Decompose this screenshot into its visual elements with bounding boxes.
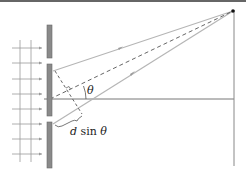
diagram-canvas: θ d sin θ	[0, 0, 246, 176]
barrier-top	[47, 25, 52, 58]
dashed-perpendicular	[55, 71, 82, 114]
ray-lower-slit	[53, 11, 233, 124]
theta-label: θ	[87, 84, 94, 97]
barrier-middle	[47, 64, 52, 116]
right-angle-marker	[66, 87, 71, 90]
barrier-bottom	[47, 122, 52, 168]
theta-arc	[84, 86, 87, 99]
screen-point-icon	[231, 9, 235, 13]
ray-upper-slit	[53, 11, 233, 71]
barrier	[47, 25, 52, 168]
double-slit-diagram: θ d sin θ	[0, 0, 246, 176]
incoming-arrowheads	[39, 47, 42, 156]
incoming-wavefronts	[20, 40, 31, 162]
incoming-wave-rays	[12, 48, 42, 154]
dashed-center-line	[50, 11, 233, 99]
path-difference-label: d sin θ	[70, 125, 107, 138]
